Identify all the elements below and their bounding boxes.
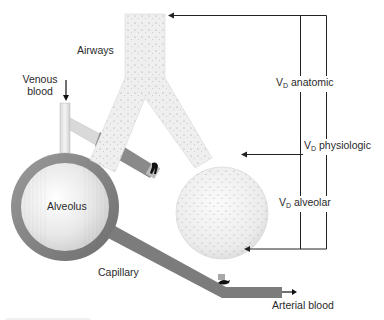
dead-space-diagram: Airways Venous blood Alveolus Capillary … bbox=[0, 0, 384, 320]
vd-anatomic-text: anatomic bbox=[291, 76, 334, 88]
vd-anatomic-label: VD anatomic bbox=[275, 76, 335, 92]
vd-subscript: D bbox=[283, 82, 288, 89]
vd-symbol: V bbox=[276, 76, 283, 88]
arterial-flow-arrow-icon bbox=[282, 289, 297, 295]
airways bbox=[90, 14, 212, 172]
vd-alveolar-label: VD alveolar bbox=[278, 196, 332, 212]
airways-label: Airways bbox=[77, 44, 114, 56]
right-bronchus bbox=[145, 78, 212, 168]
venous-inflow bbox=[60, 103, 100, 153]
capillary-clamp-icon bbox=[218, 274, 230, 285]
vd-subscript: D bbox=[286, 202, 291, 209]
anatomic-arrowhead-icon bbox=[168, 13, 174, 19]
alveolus-label: Alveolus bbox=[47, 200, 87, 212]
physiologic-arrowhead-icon bbox=[241, 152, 247, 158]
venous-blood-label: Venous blood bbox=[20, 73, 60, 97]
venous-blood-label-line2: blood bbox=[20, 85, 60, 97]
vd-subscript: D bbox=[311, 145, 316, 152]
venous-flow-arrow-icon bbox=[63, 80, 69, 101]
vd-alveolar-text: alveolar bbox=[294, 196, 331, 208]
vd-physiologic-label: VD physiologic bbox=[303, 139, 372, 155]
venous-blood-label-line1: Venous bbox=[20, 73, 60, 85]
vd-physiologic-text: physiologic bbox=[319, 139, 371, 151]
arterial-blood-label: Arterial blood bbox=[272, 299, 334, 311]
trachea bbox=[125, 14, 165, 78]
capillary-label: Capillary bbox=[98, 266, 139, 278]
vd-symbol: V bbox=[304, 139, 311, 151]
vd-symbol: V bbox=[279, 196, 286, 208]
diagram-graphics bbox=[0, 0, 384, 320]
